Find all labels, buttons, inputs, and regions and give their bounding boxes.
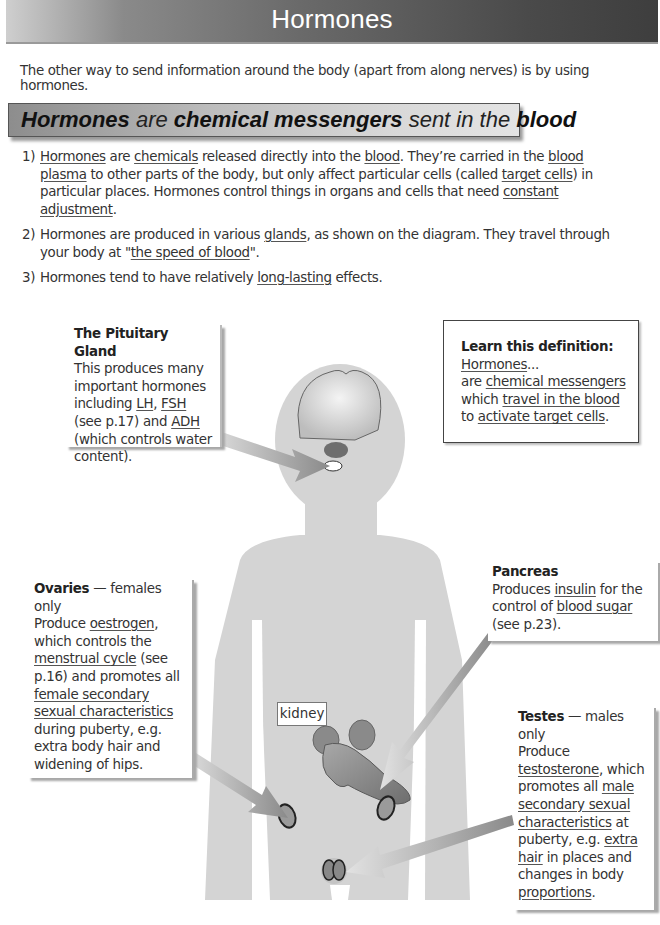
intro-text: The other way to send information around… <box>20 63 660 93</box>
text-run: Hormones are produced in various <box>40 227 264 242</box>
key-term: female secondary sexual characteristics <box>34 687 173 720</box>
text-run: are <box>461 374 486 389</box>
callout-heading: The Pituitary Gland <box>74 325 214 360</box>
key-term: proportions <box>518 885 591 900</box>
text-run: . They’re carried in the <box>400 149 548 164</box>
key-term: oestrogen <box>90 616 155 631</box>
key-term: blood sugar <box>557 599 633 614</box>
page-title: Hormones <box>6 4 658 35</box>
key-term: Hormones <box>40 149 106 164</box>
banner-part: sent in the <box>403 107 517 132</box>
callout-body: Produces insulin for the control of bloo… <box>492 581 654 634</box>
text-run: to other parts of the body, but only aff… <box>87 167 502 182</box>
key-term: chemicals <box>134 149 198 164</box>
list-item: 1)Hormones are chemicals released direct… <box>22 148 622 218</box>
definition-line: which travel in the blood <box>461 391 626 409</box>
key-term: activate target cells <box>478 409 605 424</box>
key-term: glands <box>264 227 306 242</box>
text-run: . <box>113 202 117 217</box>
text-run: (see p.23). <box>492 617 561 632</box>
banner-heading: Hormones are chemical messengers sent in… <box>21 107 576 133</box>
callout-pancreas: Pancreas Produces insulin for the contro… <box>488 563 660 641</box>
text-run: to <box>461 409 478 424</box>
list-number: 3) <box>22 269 35 287</box>
testes-icon <box>321 858 347 884</box>
text-run: released directly into the <box>198 149 364 164</box>
key-term: LH <box>136 396 153 411</box>
key-term: Hormones <box>461 357 527 372</box>
banner-part: blood <box>516 107 576 132</box>
key-term: the speed of blood <box>131 245 250 260</box>
definition-line: Hormones... <box>461 356 626 374</box>
definition-heading: Learn this definition: <box>461 338 626 356</box>
text-run: (which controls water content). <box>74 432 212 465</box>
text-run: Produce <box>518 744 570 759</box>
callout-heading: Pancreas <box>492 563 654 581</box>
banner-part: chemical messengers <box>174 107 403 132</box>
text-run: Produce <box>34 616 90 631</box>
text-run: effects. <box>332 270 383 285</box>
key-term: travel in the blood <box>502 392 619 407</box>
text-run: . <box>605 409 609 424</box>
callout-body: Produce oestrogen, which controls the me… <box>34 615 188 773</box>
definition-box: Learn this definition: Hormones...are ch… <box>443 320 639 443</box>
definition-body: Hormones...are chemical messengerswhich … <box>461 356 626 426</box>
text-run: Hormones tend to have relatively <box>40 270 257 285</box>
callout-pituitary: The Pituitary Gland This produces many i… <box>66 325 222 447</box>
key-term: FSH <box>161 396 186 411</box>
list-number: 2) <box>22 226 35 244</box>
list-number: 1) <box>22 148 35 166</box>
callout-body: Produce testosterone, which promotes all… <box>518 743 650 901</box>
key-term: chemical messengers <box>486 374 626 389</box>
section-banner: Hormones are chemical messengers sent in… <box>8 103 520 137</box>
key-term: ADH <box>171 414 200 429</box>
key-term: insulin <box>554 582 596 597</box>
text-run: Produces <box>492 582 554 597</box>
list-item: 3)Hormones tend to have relatively long-… <box>22 269 622 287</box>
page-header: Hormones <box>6 0 658 44</box>
definition-line: are chemical messengers <box>461 373 626 391</box>
text-run: (see p.17) and <box>74 414 171 429</box>
kidney-label: kidney <box>277 702 327 726</box>
points-list: 1)Hormones are chemicals released direct… <box>22 148 622 295</box>
key-term: testosterone <box>518 762 599 777</box>
key-term: blood <box>364 149 399 164</box>
key-term: long-lasting <box>257 270 331 285</box>
callout-ovaries: Ovaries — females only Produce oestrogen… <box>28 580 194 778</box>
text-run: , <box>153 396 161 411</box>
text-run: ". <box>250 245 260 260</box>
callout-heading: Testes <box>518 709 564 724</box>
list-item: 2)Hormones are produced in various gland… <box>22 226 622 261</box>
text-run: . <box>591 885 595 900</box>
key-term: target cells <box>502 167 573 182</box>
banner-part: are <box>130 107 174 132</box>
callout-heading: Ovaries <box>34 581 89 596</box>
text-run: ... <box>527 357 539 372</box>
key-term: menstrual cycle <box>34 651 136 666</box>
banner-part: Hormones <box>21 107 130 132</box>
callout-testes: Testes — males only Produce testosterone… <box>514 708 656 910</box>
text-run: during puberty, e.g. extra body hair and… <box>34 722 162 772</box>
text-run: which <box>461 392 502 407</box>
definition-line: to activate target cells. <box>461 408 626 426</box>
text-run: are <box>106 149 134 164</box>
callout-body: This produces many important hormones in… <box>74 360 214 466</box>
